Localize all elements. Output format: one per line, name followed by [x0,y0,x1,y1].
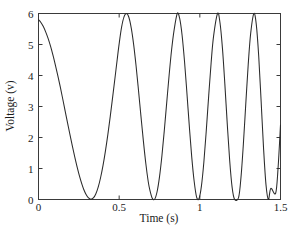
x-tick-label: 0 [36,201,42,213]
x-tick-label: 1.5 [274,201,288,213]
x-tick-label: 1 [197,201,203,213]
y-tick-label: 5 [28,39,34,51]
y-tick-label: 0 [28,194,34,206]
y-tick-label: 3 [28,101,34,113]
y-tick-label: 2 [28,132,34,144]
chart-figure: 00.511.5 0123456 Time (s) Voltage (v) [0,0,300,231]
figure-background [0,0,300,231]
y-tick-label: 1 [28,163,34,175]
y-tick-label: 6 [28,8,34,20]
y-tick-label: 4 [28,70,34,82]
y-axis-title: Voltage (v) [4,80,17,131]
voltage-vs-time-plot: 00.511.5 0123456 Time (s) Voltage (v) [0,0,300,231]
x-tick-label: 0.5 [112,201,126,213]
x-axis-title: Time (s) [140,212,179,225]
